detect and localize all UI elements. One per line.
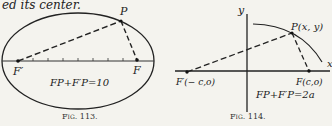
label-y-axis: y: [237, 4, 245, 17]
dashed-segment-p-f: [121, 21, 137, 60]
dashed-segment-fprime-p: [187, 33, 292, 72]
focus-fprime-point: [185, 70, 188, 73]
label-f: F(c,o): [295, 77, 323, 87]
label-p: P: [119, 5, 128, 18]
point-p: [119, 19, 122, 22]
focus-f-point: [307, 69, 310, 72]
equation-113: FP+F′P=10: [49, 77, 110, 88]
caption-113: Fig. 113.: [62, 112, 98, 121]
label-x-axis: x: [327, 58, 332, 69]
figure-113: P F F′ FP+F′P=10 Fig. 113.: [2, 5, 154, 121]
label-f-prime: F′(− c,o): [175, 77, 216, 87]
figure-114: y x P(x, y) F(c,o) F′(− c,o) FP+F′P=2a F…: [175, 4, 332, 121]
label-f: F: [132, 64, 141, 77]
equation-114: FP+F′P=2a: [255, 89, 315, 100]
dashed-segment-fprime-p: [18, 21, 121, 61]
figures-canvas: ed its center. P F F′ FP+F′P=10 Fig. 113…: [0, 0, 332, 126]
label-p: P(x, y): [290, 21, 323, 32]
focus-f-point: [135, 58, 139, 62]
label-f-prime: F′: [12, 65, 24, 78]
focus-fprime-point: [16, 59, 20, 63]
header-fragment: ed its center.: [2, 0, 81, 12]
caption-114: Fig. 114.: [230, 112, 266, 121]
